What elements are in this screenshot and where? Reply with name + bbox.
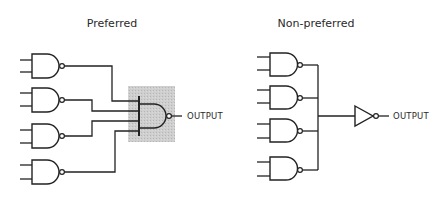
- preferred-title: Preferred: [87, 17, 138, 30]
- non-preferred-output-label: OUTPUT: [393, 111, 429, 121]
- np-nand-gate-3: [257, 119, 318, 142]
- nand-gate-2: [20, 88, 64, 112]
- inverter-gate: [355, 106, 389, 126]
- np-nand-gate-2: [257, 86, 318, 109]
- np-nand-gate-1: [257, 53, 318, 76]
- non-preferred-title: Non-preferred: [278, 17, 355, 30]
- preferred-wiring: [65, 66, 139, 172]
- nand-gate-1: [20, 54, 64, 78]
- non-preferred-diagram: Non-preferred: [257, 17, 429, 180]
- nand-gate-4: [20, 160, 64, 184]
- logic-diagram-canvas: Preferred: [0, 0, 448, 201]
- preferred-output-label: OUTPUT: [187, 111, 223, 121]
- nand-gate-3: [20, 124, 64, 148]
- np-nand-gate-4: [257, 157, 318, 180]
- preferred-diagram: Preferred: [20, 17, 223, 184]
